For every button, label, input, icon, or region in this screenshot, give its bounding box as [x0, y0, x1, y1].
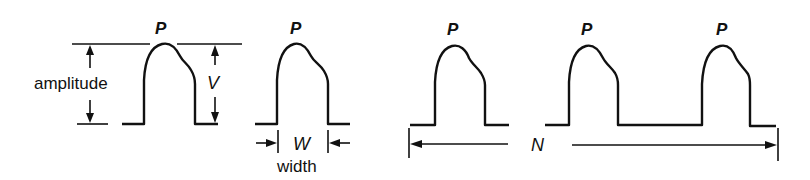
- amplitude-label: amplitude: [34, 74, 108, 93]
- w-symbol: W: [293, 134, 312, 154]
- peak-label: P: [581, 20, 593, 39]
- width-panel: W width P: [255, 19, 350, 176]
- pulse-parameters-diagram: amplitude V P W width P N P: [0, 0, 810, 180]
- arrowhead-right-icon: [266, 139, 277, 147]
- arrowhead-right-icon: [765, 141, 777, 149]
- count-panel: N P P P: [409, 20, 778, 161]
- arrowhead-down-icon: [211, 112, 219, 123]
- pulse-waveform: [255, 44, 350, 124]
- arrowhead-up-icon: [211, 45, 219, 56]
- peak-label: P: [716, 20, 728, 39]
- width-label: width: [276, 157, 317, 176]
- pulse-waveform: [410, 46, 509, 125]
- pulse-train-waveform: [545, 46, 776, 126]
- v-symbol: V: [207, 73, 221, 93]
- peak-label: P: [290, 19, 302, 38]
- peak-label: P: [155, 19, 167, 38]
- amplitude-panel: amplitude V P: [34, 19, 242, 124]
- arrowhead-down-icon: [86, 113, 94, 123]
- peak-label: P: [447, 20, 459, 39]
- arrowhead-left-icon: [329, 139, 340, 147]
- n-symbol: N: [531, 135, 545, 155]
- pulse-waveform: [122, 44, 218, 124]
- arrowhead-up-icon: [86, 45, 94, 55]
- arrowhead-left-icon: [410, 140, 422, 148]
